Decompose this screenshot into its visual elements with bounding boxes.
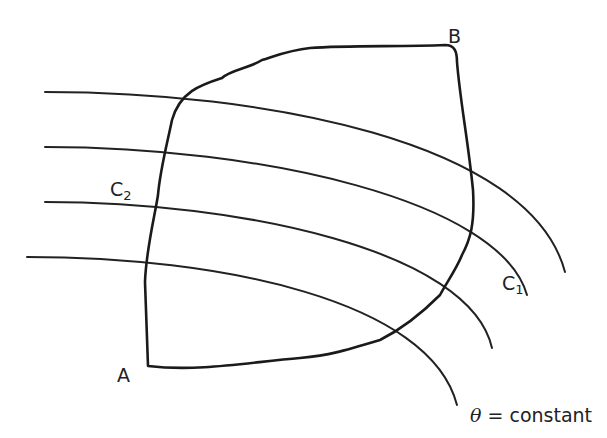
region-boundary bbox=[145, 45, 473, 368]
level-curve-c1 bbox=[45, 147, 527, 295]
theta-symbol: θ bbox=[470, 404, 481, 426]
label-curve-c2-letter: C bbox=[110, 178, 123, 200]
label-curve-c1-subscript: 1 bbox=[515, 282, 523, 297]
label-point-b: B bbox=[448, 27, 461, 46]
label-point-a: A bbox=[117, 366, 130, 385]
label-theta-constant: θ = constant bbox=[470, 406, 592, 425]
diagram-canvas bbox=[0, 0, 607, 438]
label-curve-c2: C2 bbox=[110, 180, 132, 202]
label-curve-c1: C1 bbox=[502, 274, 524, 296]
theta-constant-text: = constant bbox=[481, 404, 592, 426]
label-curve-c1-letter: C bbox=[502, 272, 515, 294]
level-curve-c2 bbox=[45, 202, 492, 348]
label-curve-c2-subscript: 2 bbox=[123, 188, 131, 203]
level-curve-theta-constant bbox=[27, 257, 457, 405]
